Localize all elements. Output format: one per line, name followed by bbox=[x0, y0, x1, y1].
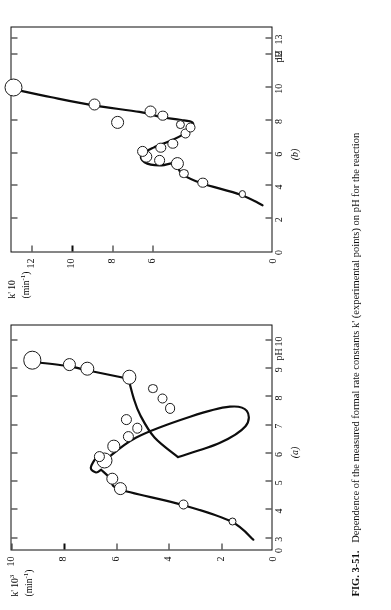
y-tick-label: 12 bbox=[25, 258, 36, 272]
panel-a: k' 103 (min-1) pH (a) 03456789100246810 bbox=[6, 308, 306, 596]
panel-tag-a: (a) bbox=[288, 308, 299, 596]
y-tick bbox=[221, 543, 222, 549]
x-tick-a bbox=[265, 152, 271, 153]
y-tick-label: 4 bbox=[162, 556, 173, 570]
data-point bbox=[80, 361, 94, 375]
x-tick-label: 6 bbox=[272, 151, 283, 156]
data-point bbox=[157, 393, 167, 403]
y-tick-label: 6 bbox=[109, 556, 120, 570]
x-tick-a bbox=[265, 217, 271, 218]
data-point bbox=[62, 357, 75, 370]
x-tick-top bbox=[11, 53, 17, 54]
data-point bbox=[122, 430, 133, 441]
data-point bbox=[122, 369, 136, 383]
y-tick bbox=[168, 543, 169, 549]
x-tick-label: 0 bbox=[272, 548, 283, 553]
figure-caption: FIG. 3-51. Dependence of the measured fo… bbox=[348, 10, 361, 596]
data-point bbox=[164, 402, 175, 413]
x-tick-a bbox=[265, 424, 271, 425]
data-point bbox=[197, 177, 207, 187]
y-tick-label: 0 bbox=[267, 556, 278, 570]
data-point bbox=[23, 351, 41, 369]
x-tick-label: 12 bbox=[272, 50, 283, 60]
x-tick-top bbox=[11, 339, 17, 340]
plot-inner-b bbox=[11, 27, 271, 251]
data-point bbox=[178, 499, 188, 509]
x-tick-top bbox=[11, 184, 17, 185]
y-tick-label: 8 bbox=[57, 556, 68, 570]
x-tick-a bbox=[265, 367, 271, 368]
y-tick bbox=[152, 245, 153, 251]
figure-caption-text: Dependence of the measured formal rate c… bbox=[349, 132, 360, 542]
x-tick-label: 10 bbox=[272, 336, 283, 346]
x-tick-label: 5 bbox=[272, 480, 283, 485]
y-tick-label: 8 bbox=[105, 258, 116, 272]
x-tick-a bbox=[265, 339, 271, 340]
scanned-figure-page: k' 103 (min-1) pH (a) 03456789100246810 … bbox=[0, 0, 391, 610]
x-tick-top bbox=[11, 452, 17, 453]
y-tick bbox=[63, 543, 64, 549]
fitted-curve-a bbox=[11, 325, 271, 549]
data-point bbox=[4, 78, 22, 96]
x-tick-top bbox=[11, 217, 17, 218]
x-tick-a bbox=[265, 452, 271, 453]
data-point bbox=[176, 120, 185, 129]
x-tick-a bbox=[265, 184, 271, 185]
x-tick-top bbox=[11, 480, 17, 481]
x-tick-a bbox=[265, 537, 271, 538]
plot-area-a bbox=[10, 324, 272, 550]
figure-row: k' 103 (min-1) pH (a) 03456789100246810 … bbox=[0, 0, 391, 610]
curve-path bbox=[13, 89, 262, 205]
panel-b: k' 10 (min-1) pH (b) 024681012130681012 bbox=[6, 10, 306, 298]
x-tick-label: 13 bbox=[272, 34, 283, 44]
data-point bbox=[121, 413, 132, 424]
panel-tag-b: (b) bbox=[288, 10, 299, 298]
x-tick-label: 4 bbox=[272, 184, 283, 189]
x-tick-top bbox=[11, 395, 17, 396]
data-point bbox=[132, 422, 142, 432]
data-point bbox=[155, 142, 165, 152]
x-tick-top bbox=[11, 537, 17, 538]
x-tick-label: 10 bbox=[272, 83, 283, 93]
plot-inner-a bbox=[11, 325, 271, 549]
fitted-curve-b bbox=[11, 27, 271, 251]
x-tick-label: 6 bbox=[272, 451, 283, 456]
x-tick-label: 9 bbox=[272, 367, 283, 372]
x-tick-a bbox=[265, 508, 271, 509]
x-tick-a bbox=[265, 53, 271, 54]
data-point bbox=[137, 146, 148, 157]
x-tick-top bbox=[11, 37, 17, 38]
x-tick-a bbox=[265, 37, 271, 38]
data-point bbox=[88, 98, 100, 110]
y-tick bbox=[31, 245, 32, 251]
plot-area-b bbox=[10, 26, 272, 252]
x-tick-label: 2 bbox=[272, 217, 283, 222]
x-tick-label: 7 bbox=[272, 423, 283, 428]
y-tick-label: 10 bbox=[65, 258, 76, 272]
x-tick-label: 4 bbox=[272, 508, 283, 513]
x-tick-a bbox=[265, 119, 271, 120]
x-tick-top bbox=[11, 367, 17, 368]
data-point bbox=[157, 110, 167, 120]
y-tick-label: 0 bbox=[267, 258, 278, 272]
x-tick-label: 0 bbox=[272, 250, 283, 255]
rotated-figure-stage: k' 103 (min-1) pH (a) 03456789100246810 … bbox=[0, 0, 391, 610]
data-point bbox=[106, 472, 118, 484]
x-axis-title-a: pH bbox=[272, 348, 283, 360]
data-point bbox=[228, 517, 236, 525]
x-tick-top bbox=[11, 119, 17, 120]
x-tick-top bbox=[11, 152, 17, 153]
data-point bbox=[144, 105, 156, 117]
data-point bbox=[110, 115, 123, 128]
y-tick-label: 10 bbox=[5, 556, 16, 570]
figure-label: FIG. 3-51. bbox=[349, 550, 360, 596]
data-point bbox=[185, 122, 195, 132]
data-point bbox=[154, 155, 165, 166]
data-point bbox=[107, 440, 119, 452]
y-tick bbox=[11, 543, 12, 549]
y-tick bbox=[71, 245, 72, 251]
data-point bbox=[148, 383, 157, 392]
data-point bbox=[238, 190, 245, 197]
data-point bbox=[167, 138, 177, 148]
y-tick bbox=[116, 543, 117, 549]
